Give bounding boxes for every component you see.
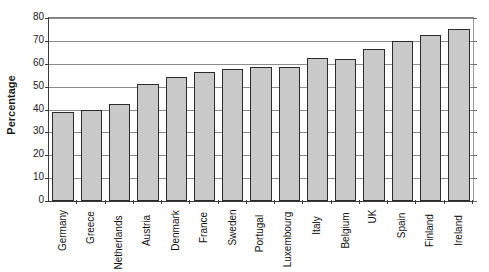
bar: [279, 67, 300, 201]
x-axis-tick-mark: [359, 200, 360, 204]
y-axis-tick-labels: 01020304050607080: [20, 10, 44, 205]
bar: [137, 84, 158, 201]
x-axis-category-label: France: [189, 205, 217, 271]
x-axis-category-label: Greece: [76, 205, 104, 271]
bar: [307, 58, 328, 201]
x-axis-category-label: Italy: [302, 205, 330, 271]
x-axis-tick-mark: [415, 200, 416, 204]
bar: [335, 59, 356, 201]
x-axis-tick-mark: [161, 200, 162, 204]
x-axis-tick-mark: [302, 200, 303, 204]
bar: [166, 77, 187, 201]
x-axis-category-label: Netherlands: [105, 205, 133, 271]
x-axis-tick-mark: [218, 200, 219, 204]
y-axis-tick-mark-right: [473, 110, 477, 111]
x-axis-category-label: Germany: [48, 205, 76, 271]
x-axis-tick-mark: [472, 200, 473, 204]
y-axis-tick-mark-right: [473, 87, 477, 88]
bar: [52, 112, 73, 201]
x-axis-category-label-text: Netherlands: [113, 215, 124, 269]
x-axis-category-label-text: France: [198, 212, 209, 243]
x-axis-category-label: Belgium: [331, 205, 359, 271]
y-axis-tick-mark-right: [473, 41, 477, 42]
y-axis-tick-label: 10: [20, 172, 44, 182]
x-axis-category-label: Portugal: [246, 205, 274, 271]
x-axis-tick-mark: [274, 200, 275, 204]
x-axis-category-label: Austria: [133, 205, 161, 271]
y-axis-tick-label: 30: [20, 126, 44, 136]
y-axis-tick-label: 80: [20, 12, 44, 22]
bar: [363, 49, 384, 201]
y-axis-tick-label: 40: [20, 104, 44, 114]
bar: [250, 67, 271, 201]
bar-series: [49, 18, 473, 201]
y-axis-title-text: Percentage: [5, 75, 17, 134]
y-axis-tick-label: 70: [20, 35, 44, 45]
x-axis-tick-mark: [133, 200, 134, 204]
y-axis-tick-mark-right: [473, 18, 477, 19]
bar-chart-figure: Percentage 01020304050607080 GermanyGree…: [0, 0, 489, 272]
x-axis-category-label: Denmark: [161, 205, 189, 271]
x-axis-category-label: Ireland: [444, 205, 472, 271]
x-axis-tick-mark: [331, 200, 332, 204]
x-axis-category-label-text: Finland: [424, 214, 435, 247]
y-axis-tick-mark-right: [473, 132, 477, 133]
x-axis-category-label-text: Portugal: [255, 215, 266, 252]
x-axis-category-label-text: Greece: [85, 211, 96, 244]
bar: [448, 29, 469, 201]
x-axis-category-label-text: Italy: [311, 216, 322, 234]
x-axis-category-label-text: Luxembourg: [283, 212, 294, 268]
bar: [194, 72, 215, 201]
x-axis-tick-mark: [387, 200, 388, 204]
x-axis-category-label-text: Belgium: [339, 213, 350, 249]
plot-area: [48, 17, 474, 202]
x-axis-category-label-text: Ireland: [452, 216, 463, 247]
x-axis-category-label-text: Spain: [396, 212, 407, 238]
x-axis-category-label-text: Austria: [141, 215, 152, 246]
x-axis-tick-mark: [105, 200, 106, 204]
bar: [420, 35, 441, 201]
x-axis-category-labels: GermanyGreeceNetherlandsAustriaDenmarkFr…: [48, 205, 474, 272]
x-axis-tick-mark: [189, 200, 190, 204]
y-axis-tick-label: 20: [20, 149, 44, 159]
x-axis-category-label-text: Denmark: [170, 211, 181, 252]
x-axis-category-label-text: Sweden: [226, 210, 237, 246]
y-axis-tick-label: 0: [20, 195, 44, 205]
y-axis-tick-mark-right: [473, 64, 477, 65]
x-axis-category-label: Spain: [387, 205, 415, 271]
x-axis-tick-mark: [444, 200, 445, 204]
bar: [81, 110, 102, 202]
bar: [109, 104, 130, 201]
bar: [222, 69, 243, 201]
x-axis-category-label: UK: [359, 205, 387, 271]
x-axis-category-label: Luxembourg: [274, 205, 302, 271]
x-axis-category-label: Sweden: [218, 205, 246, 271]
x-axis-tick-mark: [76, 200, 77, 204]
x-axis-category-label: Finland: [415, 205, 443, 271]
y-axis-title: Percentage: [0, 0, 22, 210]
y-axis-tick-mark-right: [473, 178, 477, 179]
bar: [392, 41, 413, 201]
y-axis-tick-label: 60: [20, 58, 44, 68]
x-axis-category-label-text: UK: [368, 209, 379, 223]
y-axis-tick-label: 50: [20, 81, 44, 91]
x-axis-tick-mark: [246, 200, 247, 204]
y-axis-tick-mark-right: [473, 155, 477, 156]
x-axis-category-label-text: Germany: [57, 210, 68, 251]
